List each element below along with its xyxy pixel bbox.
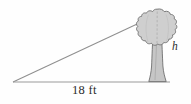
geometry-figure: 18 ft h (0, 0, 191, 104)
tree-height-label: h (172, 41, 178, 53)
base-length-label: 18 ft (72, 84, 97, 97)
tree-icon (136, 9, 176, 82)
tree-canopy (136, 9, 176, 45)
hypotenuse-line (13, 18, 150, 82)
